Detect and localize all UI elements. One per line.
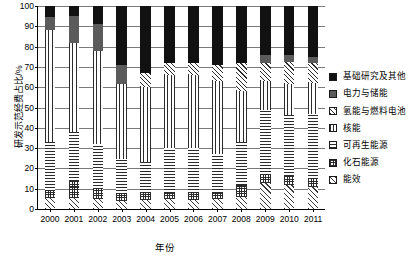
stacked-bar[interactable] bbox=[260, 6, 271, 209]
legend-swatch-solid-black bbox=[329, 73, 337, 81]
bar-segment bbox=[212, 154, 223, 193]
bar-segment bbox=[69, 6, 80, 16]
bar-segment bbox=[116, 6, 127, 65]
legend-item[interactable]: 电力与储能 bbox=[329, 85, 415, 102]
x-tick-mark bbox=[170, 209, 171, 212]
bar-segment bbox=[284, 62, 295, 84]
bar-segment bbox=[284, 176, 295, 185]
x-tick-label: 2004 bbox=[136, 214, 155, 224]
stacked-bar[interactable] bbox=[69, 6, 80, 209]
bar-segment bbox=[93, 199, 104, 209]
legend-item[interactable]: 能效 bbox=[329, 171, 415, 188]
legend: 基础研究及其他电力与储能氢能与燃料电池核能可再生能源化石能源能效 bbox=[329, 68, 415, 188]
x-tick-mark bbox=[50, 209, 51, 212]
bar-segment bbox=[260, 175, 271, 183]
x-tick-mark bbox=[122, 209, 123, 212]
x-tick-mark bbox=[74, 209, 75, 212]
bar-segment bbox=[140, 200, 151, 209]
legend-label: 电力与储能 bbox=[343, 89, 388, 98]
bar-segment bbox=[45, 30, 56, 142]
legend-label: 能效 bbox=[343, 175, 361, 184]
bar-segment bbox=[260, 63, 271, 81]
bar-segment bbox=[69, 132, 80, 181]
x-tick-mark bbox=[146, 209, 147, 212]
bar-segment bbox=[93, 51, 104, 144]
bars-container: 2000200120022003200420052006200720082009… bbox=[38, 6, 325, 209]
bar-segment bbox=[308, 114, 319, 179]
bar-segment bbox=[284, 185, 295, 209]
x-tick-label: 2008 bbox=[232, 214, 251, 224]
bar-segment bbox=[93, 144, 104, 189]
bar-segment bbox=[308, 187, 319, 209]
legend-swatch-diagonal-hatch bbox=[329, 107, 337, 115]
bar-segment bbox=[188, 200, 199, 209]
bar-segment bbox=[188, 6, 199, 63]
legend-item[interactable]: 化石能源 bbox=[329, 154, 415, 171]
bar-segment bbox=[45, 6, 56, 17]
bar-group: 2009 bbox=[253, 6, 277, 209]
bar-segment bbox=[260, 6, 271, 55]
legend-item[interactable]: 氢能与燃料电池 bbox=[329, 102, 415, 119]
bar-segment bbox=[69, 181, 80, 198]
bar-segment bbox=[236, 142, 247, 185]
stacked-bar[interactable] bbox=[212, 6, 223, 209]
bar-segment bbox=[164, 6, 175, 63]
bar-group: 2000 bbox=[38, 6, 62, 209]
bar-group: 2010 bbox=[277, 6, 301, 209]
bar-segment bbox=[93, 6, 104, 24]
bar-segment bbox=[116, 201, 127, 209]
legend-label: 氢能与燃料电池 bbox=[343, 107, 406, 116]
bar-segment bbox=[116, 84, 127, 159]
bar-segment bbox=[284, 84, 295, 114]
bar-segment bbox=[45, 17, 56, 30]
bar-group: 2006 bbox=[182, 6, 206, 209]
bar-segment bbox=[260, 55, 271, 63]
bar-segment bbox=[284, 55, 295, 62]
x-tick-label: 2001 bbox=[64, 214, 83, 224]
y-axis-label: 研发示范经费占比/% bbox=[12, 37, 25, 177]
bar-segment bbox=[236, 185, 247, 197]
x-tick-label: 2007 bbox=[208, 214, 227, 224]
stacked-bar[interactable] bbox=[93, 6, 104, 209]
bar-segment bbox=[164, 75, 175, 148]
legend-item[interactable]: 可再生能源 bbox=[329, 137, 415, 154]
bar-segment bbox=[260, 81, 271, 109]
stacked-bar[interactable] bbox=[140, 6, 151, 209]
legend-item[interactable]: 基础研究及其他 bbox=[329, 68, 415, 85]
bar-segment bbox=[69, 198, 80, 209]
stacked-bar[interactable] bbox=[188, 6, 199, 209]
bar-segment bbox=[69, 43, 80, 132]
x-tick-label: 2003 bbox=[112, 214, 131, 224]
stacked-bar[interactable] bbox=[284, 6, 295, 209]
bar-segment bbox=[69, 16, 80, 42]
stacked-bar[interactable] bbox=[116, 6, 127, 209]
x-tick-label: 2010 bbox=[280, 214, 299, 224]
x-tick-label: 2000 bbox=[40, 214, 59, 224]
bar-segment bbox=[93, 189, 104, 199]
bar-segment bbox=[188, 193, 199, 200]
bar-segment bbox=[188, 148, 199, 193]
bar-segment bbox=[45, 198, 56, 209]
legend-label: 基础研究及其他 bbox=[343, 72, 406, 81]
legend-swatch-checker bbox=[329, 159, 337, 167]
bar-segment bbox=[308, 6, 319, 57]
bar-segment bbox=[236, 6, 247, 63]
bar-segment bbox=[140, 87, 151, 162]
bar-group: 2011 bbox=[301, 6, 325, 209]
x-tick-mark bbox=[217, 209, 218, 212]
bar-segment bbox=[236, 197, 247, 209]
legend-item[interactable]: 核能 bbox=[329, 120, 415, 137]
legend-label: 化石能源 bbox=[343, 158, 379, 167]
y-tick-mark bbox=[35, 209, 38, 210]
stacked-bar[interactable] bbox=[45, 6, 56, 209]
stacked-bar[interactable] bbox=[164, 6, 175, 209]
stacked-bar[interactable] bbox=[236, 6, 247, 209]
bar-segment bbox=[284, 115, 295, 176]
bar-segment bbox=[164, 63, 175, 75]
x-axis-label: 年份 bbox=[0, 240, 330, 254]
plot-area: 0102030405060708090100 20002001200220032… bbox=[37, 6, 325, 210]
bar-segment bbox=[116, 194, 127, 201]
bar-segment bbox=[212, 65, 223, 81]
x-tick-label: 2011 bbox=[304, 214, 322, 224]
stacked-bar[interactable] bbox=[308, 6, 319, 209]
